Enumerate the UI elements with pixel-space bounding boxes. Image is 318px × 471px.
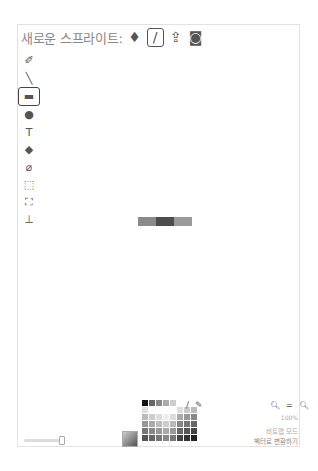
color-swatch[interactable] bbox=[191, 428, 197, 434]
color-swatch[interactable] bbox=[177, 428, 183, 434]
color-swatch[interactable] bbox=[163, 414, 169, 420]
color-swatch[interactable] bbox=[184, 435, 190, 441]
color-swatch[interactable] bbox=[163, 421, 169, 427]
eyedropper-icon[interactable]: ✎ bbox=[195, 400, 203, 410]
color-swatch[interactable] bbox=[163, 400, 169, 406]
color-swatch[interactable] bbox=[170, 400, 176, 406]
ellipse-tool-icon[interactable]: ● bbox=[18, 106, 40, 124]
brush-size-slider[interactable] bbox=[24, 439, 60, 442]
color-swatch[interactable] bbox=[184, 428, 190, 434]
choose-from-library-icon[interactable]: ♦ bbox=[127, 29, 143, 45]
color-swatch[interactable] bbox=[149, 421, 155, 427]
color-swatch[interactable] bbox=[170, 414, 176, 420]
pen-line-icon: / bbox=[186, 400, 189, 410]
color-swatch[interactable] bbox=[156, 414, 162, 420]
shape-segment bbox=[156, 217, 174, 226]
color-swatch[interactable] bbox=[170, 428, 176, 434]
color-swatch[interactable] bbox=[142, 400, 148, 406]
color-swatch[interactable] bbox=[177, 407, 183, 413]
color-swatch[interactable] bbox=[191, 435, 197, 441]
color-swatch[interactable] bbox=[184, 421, 190, 427]
fill-tool-icon[interactable]: ◆ bbox=[18, 141, 40, 159]
brush-tool-icon[interactable]: ✐ bbox=[18, 52, 40, 70]
new-sprite-bar: 새로운 스프라이트: ♦ / ⇪ ◙ bbox=[21, 27, 204, 47]
color-swatch[interactable] bbox=[177, 421, 183, 427]
line-tool-icon[interactable]: ╲ bbox=[18, 70, 40, 88]
shape-segment bbox=[138, 217, 156, 226]
color-swatch[interactable] bbox=[163, 428, 169, 434]
tool-palette: ✐ ╲ ▬ ● T ◆ ⌀ ⬚ ⛶ ⊥ bbox=[18, 52, 40, 229]
pen-width-area: / ✎ bbox=[186, 400, 203, 410]
color-swatch[interactable] bbox=[184, 414, 190, 420]
color-swatch[interactable] bbox=[142, 407, 148, 413]
eraser-tool-icon[interactable]: ⌀ bbox=[18, 159, 40, 177]
color-swatch[interactable] bbox=[177, 414, 183, 420]
color-swatch[interactable] bbox=[191, 421, 197, 427]
color-swatch[interactable] bbox=[149, 414, 155, 420]
color-swatch[interactable] bbox=[170, 435, 176, 441]
paint-new-sprite-icon[interactable]: / bbox=[147, 28, 164, 47]
color-swatch[interactable] bbox=[156, 421, 162, 427]
color-swatch[interactable] bbox=[163, 407, 169, 413]
zoom-controls: 🔍︎ = 🔍︎ bbox=[270, 401, 309, 410]
mode-label: 비트맵 모드 bbox=[266, 426, 298, 436]
color-swatch[interactable] bbox=[156, 435, 162, 441]
color-swatch[interactable] bbox=[163, 435, 169, 441]
color-swatch[interactable] bbox=[177, 400, 183, 406]
upload-sprite-icon[interactable]: ⇪ bbox=[168, 29, 184, 45]
stamp-tool-icon[interactable]: ⛶ bbox=[18, 194, 40, 212]
color-swatch[interactable] bbox=[170, 421, 176, 427]
zoom-in-icon[interactable]: 🔍︎ bbox=[299, 401, 309, 410]
zoom-level: 100% bbox=[281, 414, 298, 421]
color-swatch[interactable] bbox=[142, 428, 148, 434]
rectangle-tool-icon[interactable]: ▬ bbox=[18, 87, 40, 106]
color-swatch[interactable] bbox=[156, 400, 162, 406]
slider-handle[interactable] bbox=[59, 436, 65, 445]
new-sprite-title: 새로운 스프라이트: bbox=[21, 28, 123, 47]
color-swatch[interactable] bbox=[156, 407, 162, 413]
paint-editor-frame bbox=[17, 24, 300, 447]
color-swatch[interactable] bbox=[142, 435, 148, 441]
zoom-out-icon[interactable]: 🔍︎ bbox=[270, 401, 280, 410]
zoom-reset-button[interactable]: = bbox=[286, 401, 293, 410]
color-swatch[interactable] bbox=[142, 421, 148, 427]
color-swatch[interactable] bbox=[149, 435, 155, 441]
text-tool-icon[interactable]: T bbox=[18, 124, 40, 142]
color-swatch[interactable] bbox=[177, 435, 183, 441]
color-swatch[interactable] bbox=[142, 414, 148, 420]
color-swatch[interactable] bbox=[149, 428, 155, 434]
color-swatch[interactable] bbox=[170, 407, 176, 413]
drawn-shape[interactable] bbox=[138, 217, 192, 226]
color-swatch[interactable] bbox=[156, 428, 162, 434]
color-swatch[interactable] bbox=[149, 407, 155, 413]
color-swatch[interactable] bbox=[191, 414, 197, 420]
set-costume-center-icon[interactable]: ⊥ bbox=[18, 211, 40, 229]
convert-to-vector-button[interactable]: 벡터로 변환하기 bbox=[254, 436, 298, 446]
select-tool-icon[interactable]: ⬚ bbox=[18, 176, 40, 194]
current-color-swatch[interactable] bbox=[122, 431, 138, 447]
color-swatch[interactable] bbox=[149, 400, 155, 406]
camera-icon[interactable]: ◙ bbox=[188, 29, 204, 45]
shape-segment bbox=[174, 217, 192, 226]
